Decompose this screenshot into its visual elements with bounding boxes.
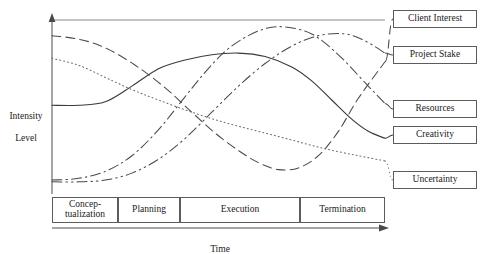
legend-label-creativity: Creativity: [416, 130, 454, 140]
project-lifecycle-chart: Client Interest Project Stake Resources …: [0, 0, 482, 254]
legend-label-resources: Resources: [415, 104, 454, 114]
x-axis-label: Time: [188, 233, 252, 254]
series-line-creativity: [52, 53, 385, 138]
data-series-layer: [52, 27, 385, 182]
legend-label-client-interest: Client Interest: [408, 14, 462, 24]
series-line-uncertainty: [52, 58, 385, 161]
y-axis-label-line2: Level: [15, 133, 37, 143]
phase-box-planning[interactable]: Planning: [118, 197, 180, 223]
leader-project-stake: [385, 53, 393, 55]
series-line-project-stake: [52, 34, 385, 182]
legend-item-project-stake[interactable]: Project Stake: [393, 46, 477, 64]
x-axis-label-text: Time: [210, 244, 230, 254]
phase-label-conceptualization: Concep- tualization: [65, 200, 105, 220]
time-axis-arrow: [52, 224, 389, 231]
phase-label-execution: Execution: [221, 205, 260, 215]
leader-uncertainty: [385, 161, 393, 180]
legend-label-uncertainty: Uncertainty: [413, 175, 458, 185]
legend-label-project-stake: Project Stake: [410, 50, 460, 60]
phase-box-conceptualization[interactable]: Concep- tualization: [52, 197, 118, 223]
phase-label-planning: Planning: [132, 205, 166, 215]
legend-leader-lines: [385, 19, 393, 180]
y-axis-label: Intensity Level: [2, 100, 50, 144]
legend-item-creativity[interactable]: Creativity: [393, 126, 477, 144]
legend-item-client-interest[interactable]: Client Interest: [393, 10, 477, 28]
legend-item-resources[interactable]: Resources: [393, 100, 477, 118]
phase-box-termination[interactable]: Termination: [300, 197, 385, 223]
leader-creativity: [385, 135, 393, 138]
legend-item-uncertainty[interactable]: Uncertainty: [393, 171, 477, 189]
leader-resources: [385, 104, 393, 109]
phase-box-execution[interactable]: Execution: [180, 197, 300, 223]
phase-label-termination: Termination: [319, 205, 365, 215]
y-axis-label-line1: Intensity: [9, 111, 42, 121]
